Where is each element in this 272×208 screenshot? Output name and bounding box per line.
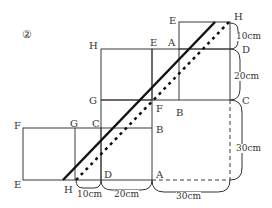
dim-right-bottom: 30cm — [236, 144, 261, 153]
label-bottom-h: H — [64, 185, 73, 195]
brace-right-bottom — [230, 100, 242, 180]
label-right-d: D — [242, 45, 250, 55]
label-left-f: F — [14, 121, 21, 131]
label-mid-e: E — [150, 38, 157, 48]
figure-number: ② — [22, 30, 32, 40]
top-face — [179, 22, 230, 49]
label-left-c: C — [92, 119, 100, 129]
dim-bottom-right: 30cm — [176, 192, 201, 201]
label-left-b: B — [156, 125, 163, 135]
brace-bottom-left — [76, 180, 101, 188]
label-mid-b: B — [176, 108, 183, 118]
upper-left-face — [101, 49, 152, 100]
label-bottom-e: E — [14, 180, 21, 190]
label-mid-g: G — [89, 96, 97, 106]
label-left-g: G — [70, 119, 78, 129]
label-mid-h: H — [89, 41, 98, 51]
label-mid-a: A — [168, 38, 175, 48]
label-top-h: H — [234, 12, 243, 22]
solid-diagonal — [63, 22, 215, 180]
label-bottom-d: D — [104, 170, 112, 180]
label-mid-f: F — [156, 104, 163, 114]
net-diagram — [0, 0, 272, 208]
dim-right-mid: 20cm — [234, 72, 259, 81]
label-top-e: E — [169, 16, 176, 26]
center-face — [101, 100, 152, 180]
label-bottom-a: A — [156, 170, 163, 180]
label-right-c: C — [242, 96, 250, 106]
dim-bottom-left: 10cm — [77, 190, 102, 199]
dim-bottom-mid: 20cm — [114, 190, 139, 199]
dim-right-top: 10cm — [236, 32, 261, 41]
